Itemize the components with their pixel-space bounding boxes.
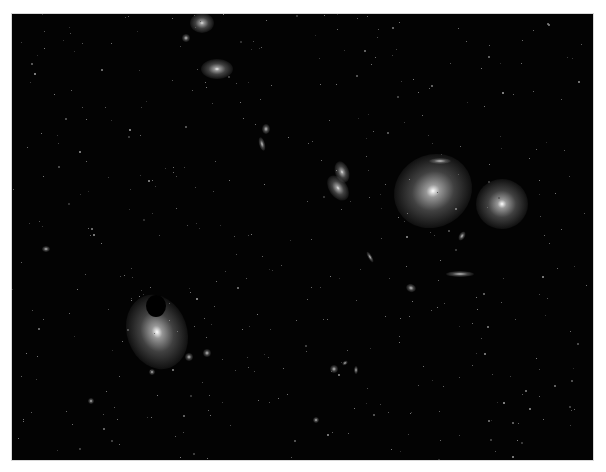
star [399,336,400,337]
star [190,395,192,397]
galaxy-small-mid-lower [405,283,417,294]
star [544,235,545,236]
star [476,297,477,298]
star [86,119,87,120]
star [38,328,40,330]
star [327,434,329,436]
star [329,120,330,121]
star [472,323,473,324]
star [148,180,150,182]
star [82,107,83,108]
star [237,287,239,289]
star [407,213,408,214]
star [235,370,236,371]
star [489,164,490,165]
star [539,194,540,195]
star [129,129,131,131]
galaxy-small-bottom [313,417,319,423]
star [185,126,187,128]
star [467,102,468,103]
star [561,229,562,230]
star [264,354,265,355]
star [268,357,269,358]
star [503,278,504,279]
star [119,444,120,445]
star [242,329,243,330]
galaxy-small-left [42,246,50,252]
star [63,40,64,41]
star [366,156,367,157]
star [466,41,467,42]
star [223,14,224,15]
star [184,167,185,168]
star [389,278,390,279]
star [381,208,382,209]
star [79,448,81,450]
star [460,146,461,147]
star [272,270,273,271]
star [296,15,298,17]
star [130,189,131,190]
star [291,457,292,458]
star [143,219,145,221]
star [180,457,181,458]
star [290,240,291,241]
star [141,290,142,291]
star [42,226,43,227]
star [169,303,170,304]
star [248,235,249,236]
star [155,186,156,187]
star [373,414,375,416]
star [481,338,482,339]
star [21,262,22,263]
star [77,289,78,290]
star [344,50,345,51]
star [86,161,87,162]
star [432,143,433,144]
star [370,348,371,349]
star [358,118,359,119]
star [488,56,490,58]
star [222,359,223,360]
star [175,436,176,437]
star [515,319,516,320]
star [573,368,574,369]
star [392,55,393,56]
star [228,76,230,78]
star [431,310,432,311]
star [367,16,368,17]
star [269,269,270,270]
star [410,413,411,414]
star [131,298,132,299]
star [418,385,419,386]
star [236,254,237,255]
star [220,225,221,226]
star [271,85,272,86]
star [441,154,442,155]
star [543,419,544,420]
galaxy-small-spiral-1 [262,124,270,134]
star [368,114,369,115]
star [74,51,75,52]
star [261,47,262,48]
star [570,331,571,332]
star [512,422,514,424]
galaxy-small-bottom-left [88,398,94,404]
star [387,132,389,134]
star [251,49,252,50]
star [320,287,321,288]
star [199,228,200,229]
star [307,201,308,202]
star [183,415,185,417]
star [288,137,289,138]
star [350,201,351,202]
star [487,326,489,328]
star [281,265,282,266]
star [490,439,492,441]
star [266,20,267,21]
star [443,386,444,387]
star [258,400,259,401]
star [119,376,120,377]
star [58,143,59,144]
star [139,70,140,71]
